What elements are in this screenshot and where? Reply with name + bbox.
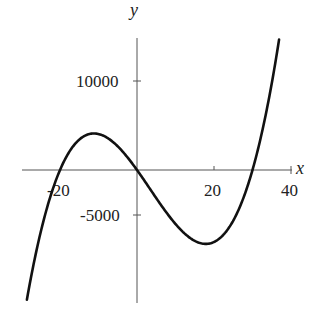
y-tick-label-neg5000: -5000 [80,206,120,225]
y-tick-label-10000: 10000 [76,72,119,91]
x-tick-label-40: 40 [281,181,298,200]
chart: -20 20 40 10000 -5000 x y [0,0,322,313]
x-tick-label-20: 20 [204,181,221,200]
y-axis-label: y [128,0,138,20]
x-axis-label: x [295,158,304,178]
